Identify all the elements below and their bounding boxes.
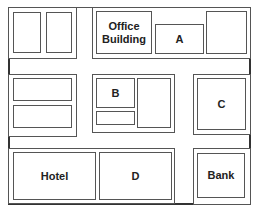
building-d-label: D: [132, 170, 140, 183]
building-a: A: [155, 24, 204, 54]
building-bank: Bank: [197, 153, 245, 198]
building-b: B: [96, 78, 135, 108]
building-top-left-2: [46, 12, 72, 53]
building-office: Office Building: [96, 11, 152, 54]
building-a-label: A: [176, 33, 184, 46]
building-middle-left-2: [13, 105, 72, 128]
building-c: C: [197, 78, 246, 130]
building-top-right-empty: [206, 11, 247, 54]
building-b-label: B: [112, 87, 120, 100]
office-building-label: Office Building: [99, 20, 149, 46]
building-c-label: C: [218, 98, 226, 111]
hotel-label: Hotel: [41, 170, 69, 183]
building-top-left-1: [13, 12, 41, 53]
building-hotel: Hotel: [13, 152, 96, 200]
building-middle-center-small: [96, 111, 135, 125]
bank-label: Bank: [208, 169, 235, 182]
building-middle-left-1: [13, 78, 72, 101]
building-middle-center-right: [137, 78, 171, 128]
building-d: D: [99, 152, 172, 200]
